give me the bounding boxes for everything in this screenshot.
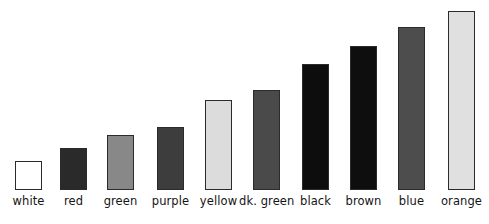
bar-red[interactable] [60,148,87,190]
bar-orange[interactable] [448,11,475,190]
bar-chart: whiteredgreenpurpleyellowdk. greenblackb… [0,0,489,224]
bar-label-purple: purple [143,194,198,208]
bar-black[interactable] [302,64,329,190]
bar-label-green: green [93,194,148,208]
bar-green[interactable] [107,135,134,190]
bar-label-black: black [288,194,343,208]
bar-brown[interactable] [350,46,377,190]
bar-purple[interactable] [157,127,184,190]
bar-label-brown: brown [336,194,391,208]
bar-dk-green[interactable] [253,90,280,190]
bar-blue[interactable] [398,27,425,190]
bar-label-blue: blue [384,194,439,208]
bar-label-yellow: yellow [191,194,246,208]
bar-label-orange: orange [434,194,489,208]
plot-area: whiteredgreenpurpleyellowdk. greenblackb… [0,0,489,224]
bar-label-dk-green: dk. green [239,194,294,208]
bar-yellow[interactable] [205,100,232,190]
bar-white[interactable] [15,161,42,190]
